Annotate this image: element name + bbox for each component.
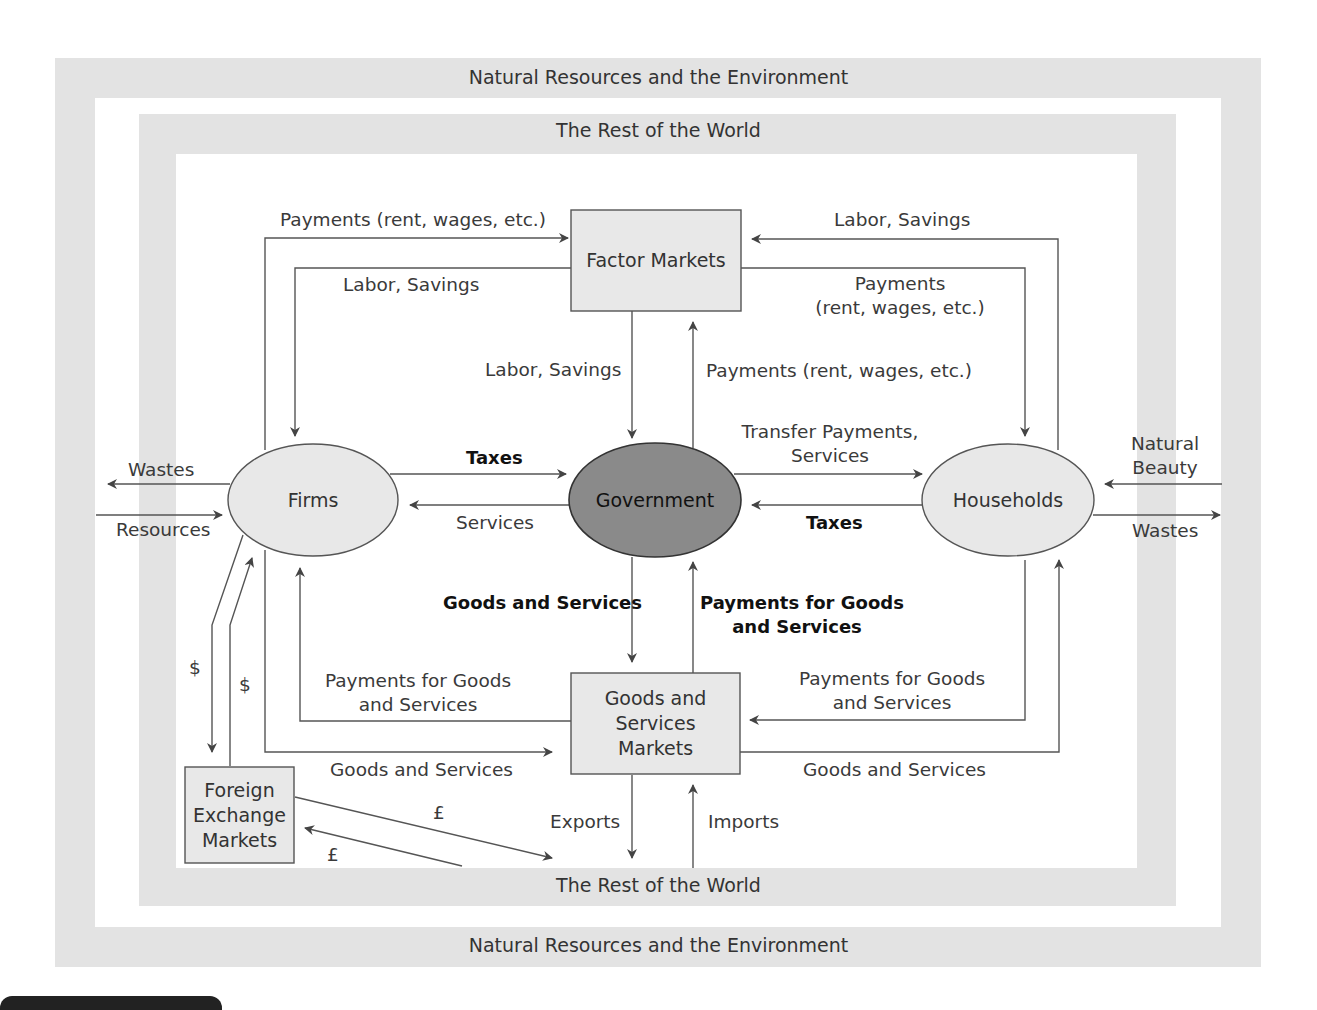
- flow-label: Goods and Services: [330, 758, 513, 782]
- line: and Services: [794, 691, 990, 715]
- dollar-label: $: [189, 656, 201, 680]
- flow-label: Goods and Services: [803, 758, 986, 782]
- flow-label: Transfer Payments, Services: [730, 420, 930, 468]
- flow-label: Natural Beauty: [1125, 432, 1205, 480]
- pound-label: £: [433, 801, 445, 825]
- line: Transfer Payments,: [730, 420, 930, 444]
- goods-markets-label: Goods and Services Markets: [571, 686, 740, 761]
- line: Markets: [571, 736, 740, 761]
- line: and Services: [700, 615, 894, 639]
- flow-label: Resources: [116, 518, 210, 542]
- line: Payments for Goods: [794, 667, 990, 691]
- line: and Services: [320, 693, 516, 717]
- line: Beauty: [1125, 456, 1205, 480]
- flow-label: Payments for Goods and Services: [700, 591, 894, 639]
- line: Services: [571, 711, 740, 736]
- government-label: Government: [569, 488, 741, 513]
- line: Exchange: [185, 803, 294, 828]
- households-label: Households: [922, 488, 1094, 513]
- flow-label: Exports: [550, 810, 620, 834]
- pound-label: £: [327, 843, 339, 867]
- line: Markets: [185, 828, 294, 853]
- flow-label: Labor, Savings: [343, 273, 479, 297]
- dollar-label: $: [239, 673, 251, 697]
- flow-label: Taxes: [466, 446, 523, 470]
- flow-label: Services: [456, 511, 534, 535]
- flow-label: Taxes: [806, 511, 863, 535]
- flow-label: Payments (rent, wages, etc.): [800, 272, 1000, 320]
- line: (rent, wages, etc.): [800, 296, 1000, 320]
- flow-label: Wastes: [1132, 519, 1198, 543]
- flow-label: Goods and Services: [443, 591, 642, 615]
- flow-label: Payments for Goods and Services: [320, 669, 516, 717]
- flow-label: Imports: [708, 810, 779, 834]
- line: Services: [730, 444, 930, 468]
- flow-label: Labor, Savings: [834, 208, 970, 232]
- flow-label: Payments for Goods and Services: [794, 667, 990, 715]
- line: Payments for Goods: [700, 591, 894, 615]
- line: Goods and: [571, 686, 740, 711]
- page-tab-stub: [0, 996, 222, 1010]
- flow-label: Payments (rent, wages, etc.): [706, 359, 972, 383]
- forex-label: Foreign Exchange Markets: [185, 778, 294, 853]
- flow-label: Wastes: [128, 458, 194, 482]
- line: Payments for Goods: [320, 669, 516, 693]
- firms-label: Firms: [228, 488, 398, 513]
- line: Natural: [1125, 432, 1205, 456]
- factor-markets-label: Factor Markets: [571, 248, 741, 273]
- line: Foreign: [185, 778, 294, 803]
- flow-label: Labor, Savings: [485, 358, 621, 382]
- flow-label: Payments (rent, wages, etc.): [280, 208, 546, 232]
- line: Payments: [800, 272, 1000, 296]
